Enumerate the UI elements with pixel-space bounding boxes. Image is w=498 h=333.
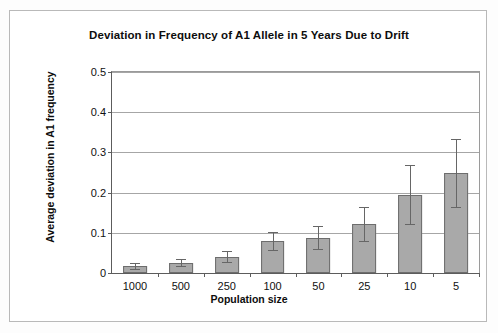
bar-group: 50: [296, 72, 342, 273]
error-bar-cap-bottom: [268, 250, 278, 251]
bars-group: 10005002501005025105: [112, 72, 479, 273]
y-axis-title: Average deviation in A1 frequency: [44, 57, 56, 257]
y-tick-label: 0: [100, 267, 106, 279]
bar-group: 1000: [112, 72, 158, 273]
error-bar-cap-top: [451, 139, 461, 140]
x-tick-mark: [158, 273, 159, 277]
error-bar-cap-bottom: [176, 266, 186, 267]
plot-area: 00.10.20.30.40.5 10005002501005025105: [111, 71, 480, 274]
x-tick-label: 500: [172, 280, 190, 292]
x-tick-label: 50: [312, 280, 324, 292]
y-tick-label: 0.2: [91, 187, 106, 199]
error-bar-cap-top: [176, 259, 186, 260]
error-bar-line: [456, 139, 457, 207]
y-tick-label: 0.4: [91, 106, 106, 118]
error-bar-line: [181, 259, 182, 267]
bar-group: 500: [158, 72, 204, 273]
error-bar-line: [227, 251, 228, 261]
error-bar-cap-top: [405, 165, 415, 166]
error-bar-line: [318, 226, 319, 249]
y-tick-label: 0.1: [91, 227, 106, 239]
x-tick-label: 1000: [123, 280, 147, 292]
y-tick-mark: [108, 273, 112, 274]
error-bar-cap-top: [222, 251, 232, 252]
x-tick-label: 25: [358, 280, 370, 292]
chart-title: Deviation in Frequency of A1 Allele in 5…: [10, 29, 488, 41]
chart-card: Deviation in Frequency of A1 Allele in 5…: [9, 10, 487, 322]
error-bar-cap-top: [359, 207, 369, 208]
bar-group: 25: [341, 72, 387, 273]
bar-group: 100: [250, 72, 296, 273]
x-tick-mark: [387, 273, 388, 277]
y-tick-label: 0.5: [91, 66, 106, 78]
screenshot-root: Deviation in Frequency of A1 Allele in 5…: [0, 0, 498, 333]
x-axis-title: Population size: [10, 293, 488, 305]
error-bar-line: [410, 165, 411, 224]
bar-group: 10: [387, 72, 433, 273]
x-tick-mark: [479, 273, 480, 277]
x-tick-label: 100: [263, 280, 281, 292]
x-tick-label: 250: [218, 280, 236, 292]
error-bar-cap-bottom: [359, 241, 369, 242]
x-tick-mark: [296, 273, 297, 277]
error-bar-cap-top: [268, 232, 278, 233]
x-tick-mark: [341, 273, 342, 277]
error-bar-cap-bottom: [313, 249, 323, 250]
error-bar-line: [364, 207, 365, 242]
bar-group: 250: [204, 72, 250, 273]
x-tick-label: 5: [453, 280, 459, 292]
error-bar-cap-bottom: [405, 224, 415, 225]
x-tick-mark: [250, 273, 251, 277]
error-bar-cap-bottom: [130, 269, 140, 270]
error-bar-cap-top: [130, 263, 140, 264]
bar-group: 5: [433, 72, 479, 273]
x-tick-label: 10: [404, 280, 416, 292]
x-tick-mark: [433, 273, 434, 277]
error-bar-line: [273, 232, 274, 251]
y-tick-label: 0.3: [91, 146, 106, 158]
error-bar-cap-top: [313, 226, 323, 227]
error-bar-cap-bottom: [222, 262, 232, 263]
error-bar-cap-bottom: [451, 207, 461, 208]
x-tick-mark: [204, 273, 205, 277]
